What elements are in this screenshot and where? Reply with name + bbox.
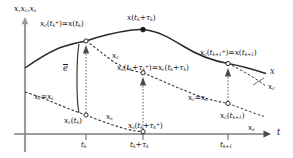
x-axis-label: t xyxy=(277,128,280,136)
label-xc-at-tk: xc(tk) xyxy=(64,117,82,126)
y-axis-arrowhead xyxy=(22,17,29,24)
marker-x-at-tk xyxy=(84,39,88,43)
x-tick-label-tk1: tk+1 xyxy=(220,141,232,150)
x-tick-label-tk-tau: tk+τk xyxy=(130,141,149,150)
curve-x-segment-peak xyxy=(86,29,143,41)
label-error-ebar: e xyxy=(63,64,68,72)
label-xc-jump-at-tk1: xc(tk+1+)=x(tk+1) xyxy=(200,49,257,58)
label-x-at-tk-tau: x(tk+τk) xyxy=(127,14,156,23)
error-bar-bracket xyxy=(77,44,79,113)
label-xc-jump-at-tk: xc(tk+)=x(tk) xyxy=(40,20,84,29)
marker-xc-at-tk xyxy=(84,113,88,117)
error-bar-group xyxy=(77,44,79,113)
leader-lines-group xyxy=(253,78,264,85)
label-xc-equals-xs-right: xc=xs xyxy=(188,94,207,103)
label-xc-equals-xs-left: xc=xs xyxy=(34,93,53,102)
jump-arrow-tk-head xyxy=(83,45,89,54)
label-curve-xc-right: xc xyxy=(268,83,275,92)
jump-arrow-tk1-head xyxy=(225,68,231,77)
curve-xc-xs-merged-segment xyxy=(143,73,228,104)
label-curve-xs-right: xs xyxy=(248,124,254,133)
label-curve-xs-lower: xs xyxy=(106,113,112,122)
x-tick-label-tk: tk xyxy=(81,141,87,150)
x-axis-arrowhead xyxy=(264,131,272,138)
jump-arrow-tktau-head xyxy=(140,77,146,86)
label-xc-at-tk1: xc(tk+1) xyxy=(220,112,245,121)
y-axis-label: x,xc,xs xyxy=(14,5,36,14)
marker-xc-at-tk1 xyxy=(226,101,230,105)
label-curve-xc-middle: xc xyxy=(112,52,119,61)
marker-x-at-tk-tau xyxy=(141,27,146,32)
marker-x-at-tk1 xyxy=(226,61,230,65)
label-xs-at-tk-tau: xs(tk+τk+) xyxy=(128,122,163,131)
leader-line-xc-right xyxy=(253,78,264,85)
curve-xc-segment-tail xyxy=(228,64,266,87)
label-xs-jump-at-tk-tau: xs(tk+τk+)=xc(tk+τk) xyxy=(117,64,189,73)
label-curve-x-right: x xyxy=(270,67,275,75)
state-trajectory-figure: x,xc,xs t xc(tk+)=x(tk) x(tk+τk) xc(tk+1… xyxy=(0,0,293,158)
